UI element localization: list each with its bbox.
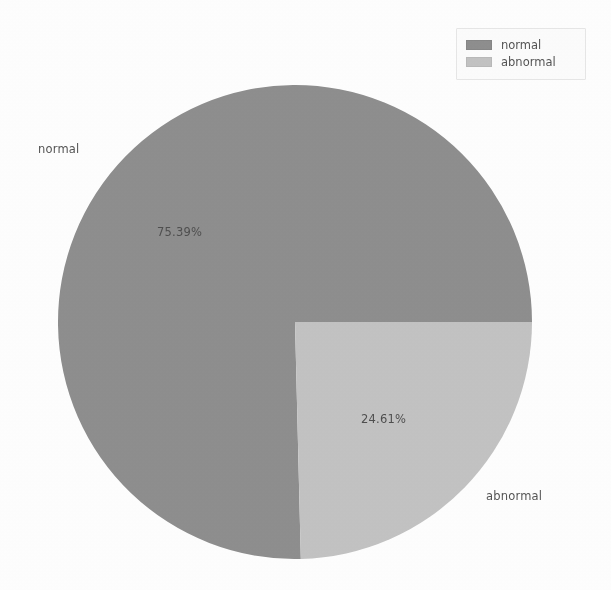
pie-slice-label-normal: normal <box>38 142 80 156</box>
pie-slice-label-abnormal: abnormal <box>486 489 542 503</box>
legend-swatch-abnormal-icon <box>466 57 492 67</box>
legend-label-normal: normal <box>501 38 541 52</box>
legend-item-normal[interactable]: normal <box>466 37 576 53</box>
pie-slice-percent-normal: 75.39% <box>157 225 202 239</box>
legend-item-abnormal[interactable]: abnormal <box>466 54 576 70</box>
legend-label-abnormal: abnormal <box>501 55 556 69</box>
pie-svg <box>58 85 532 559</box>
pie-slice-percent-abnormal: 24.61% <box>361 412 406 426</box>
pie-chart-figure: normal abnormal 75.39% 24.61% normal abn… <box>0 0 611 590</box>
chart-legend: normal abnormal <box>456 28 586 80</box>
pie-chart-area <box>58 85 532 559</box>
pie-slice-abnormal[interactable] <box>295 322 532 559</box>
legend-swatch-normal-icon <box>466 40 492 50</box>
